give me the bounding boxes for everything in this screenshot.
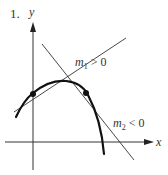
- y-axis-label: y: [28, 5, 35, 19]
- x-axis-arrow-icon: [144, 139, 154, 145]
- tangency-point-left: [30, 91, 36, 97]
- y-axis-arrow-icon: [30, 22, 36, 32]
- curve: [16, 81, 104, 154]
- slope-m1-base: m: [75, 55, 84, 69]
- x-axis: [5, 139, 154, 145]
- tangent-line-positive: [14, 38, 126, 112]
- x-axis-label: x: [155, 135, 162, 149]
- figure-number: 1.: [10, 6, 20, 21]
- slope-m1-relation: > 0: [88, 55, 107, 69]
- slope-m2-base: m: [113, 116, 122, 130]
- slope-m2-relation: < 0: [126, 116, 145, 130]
- slope-label-m2: m2 < 0: [113, 116, 144, 132]
- slope-label-m1: m1 > 0: [75, 55, 106, 71]
- tangent-slope-diagram: 1. y x m1 > 0 m2 < 0: [0, 0, 168, 175]
- tangency-point-right: [83, 90, 89, 96]
